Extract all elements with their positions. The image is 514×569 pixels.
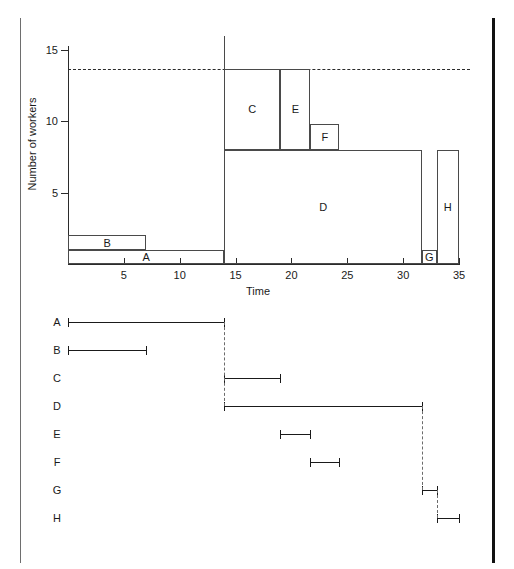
histogram-block-label-e: E [288, 104, 302, 115]
activity-bar-cap-f-start [310, 458, 311, 467]
x-tick-label-25: 25 [332, 270, 362, 281]
activity-bar-cap-a-start [68, 318, 69, 327]
figure-canvas: 51015 5101520253035 ABCDEFGH Number of w… [0, 0, 514, 569]
activity-bar-cap-b-end [146, 346, 147, 355]
histogram-block-label-a: A [139, 252, 153, 263]
activity-bar-h [437, 518, 459, 519]
activity-bar-cap-h-end [459, 514, 460, 523]
x-tick-label-10: 10 [165, 270, 195, 281]
x-axis-label: Time [223, 285, 293, 297]
y-tick-label-15: 15 [32, 45, 58, 56]
y-axis-label: Number of workers [26, 89, 38, 199]
y-tick-10 [61, 121, 68, 122]
x-tick-label-20: 20 [276, 270, 306, 281]
histogram-block-label-h: H [441, 202, 455, 213]
x-tick-label-15: 15 [221, 270, 251, 281]
x-tick-35 [459, 258, 460, 265]
y-tick-15 [61, 50, 68, 51]
x-tick-label-5: 5 [109, 270, 139, 281]
histogram-block-label-b: B [100, 238, 114, 249]
x-tick-label-35: 35 [444, 270, 474, 281]
activity-row-label-f: F [50, 457, 64, 468]
activity-row-label-a: A [50, 317, 64, 328]
activity-bar-d [224, 406, 422, 407]
activity-bar-e [280, 434, 310, 435]
histogram-block-label-f: F [318, 132, 332, 143]
dependency-link-a-to-d [224, 322, 225, 406]
activity-bar-a [68, 322, 224, 323]
activity-bar-cap-f-end [339, 458, 340, 467]
x-axis-line [68, 264, 459, 265]
y-tick-5 [61, 193, 68, 194]
histogram-block-label-d: D [316, 202, 330, 213]
histogram-block-label-c: C [245, 104, 259, 115]
activity-row-label-g: G [50, 485, 64, 496]
activity-bar-cap-e-start [280, 430, 281, 439]
activity-bar-panel: ABCDEFGH [0, 300, 514, 569]
activity-row-label-h: H [50, 513, 64, 524]
histogram-block-label-g: G [422, 252, 436, 263]
activity-row-label-c: C [50, 373, 64, 384]
dependency-link-d-to-g [422, 406, 423, 490]
activity-bar-cap-b-start [68, 346, 69, 355]
dependency-link-g-to-h [437, 490, 438, 518]
y-axis-line [68, 46, 69, 264]
x-tick-label-30: 30 [388, 270, 418, 281]
resource-histogram-panel: 51015 5101520253035 ABCDEFGH Number of w… [0, 0, 514, 300]
activity-bar-cap-c-end [280, 374, 281, 383]
activity-bar-b [68, 350, 146, 351]
activity-row-label-b: B [50, 345, 64, 356]
activity-bar-c [224, 378, 280, 379]
activity-bar-f [310, 462, 339, 463]
activity-row-label-e: E [50, 429, 64, 440]
activity-row-label-d: D [50, 401, 64, 412]
activity-bar-g [422, 490, 437, 491]
activity-bar-cap-e-end [310, 430, 311, 439]
